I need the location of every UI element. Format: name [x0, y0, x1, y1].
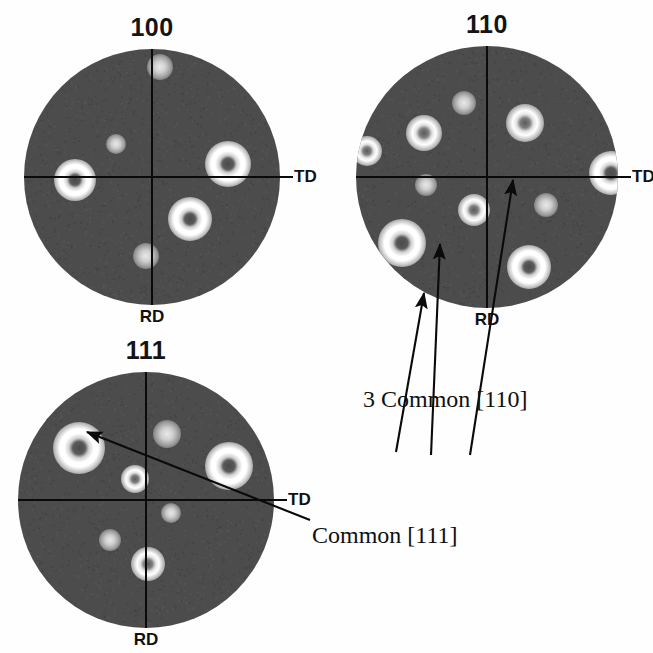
pole-figure-disk — [356, 46, 618, 308]
figure-canvas: 100TDRD110TDRD111TDRD 3 Common [110] Com… — [0, 0, 653, 653]
pole-figure-title: 110 — [356, 12, 618, 37]
horizontal-axis — [356, 176, 618, 178]
pole-spot — [534, 193, 558, 217]
td-axis-tick — [618, 176, 631, 178]
pole-spot — [205, 141, 251, 187]
pole-figure-disk — [18, 372, 274, 628]
pole-figure-111: 111TDRD — [18, 338, 274, 652]
td-label: TD — [288, 491, 311, 508]
pole-figure-100: 100TDRD — [24, 15, 280, 329]
td-label: TD — [294, 168, 317, 185]
pole-spot — [506, 104, 544, 142]
pole-figure-110: 110TDRD — [356, 12, 618, 332]
td-label: TD — [632, 168, 653, 185]
pole-spot — [99, 529, 121, 551]
pole-figure-title: 111 — [18, 338, 274, 363]
pole-figure-title: 100 — [24, 15, 280, 40]
pole-figure-disk — [24, 49, 280, 305]
pole-spot — [161, 503, 181, 523]
rd-label: RD — [130, 308, 174, 325]
rd-label: RD — [465, 311, 509, 328]
horizontal-axis — [18, 499, 274, 501]
annotation-3-common-110: 3 Common [110] — [363, 387, 527, 411]
rd-label: RD — [124, 631, 168, 648]
pole-spot — [168, 197, 212, 241]
pole-spot — [131, 547, 165, 581]
horizontal-axis — [24, 176, 280, 178]
annotation-common-111: Common [111] — [312, 523, 458, 547]
td-axis-tick — [274, 499, 287, 501]
td-axis-tick — [280, 176, 293, 178]
pole-spot — [54, 159, 96, 201]
pole-spot — [507, 245, 551, 289]
pole-spot — [406, 115, 442, 151]
